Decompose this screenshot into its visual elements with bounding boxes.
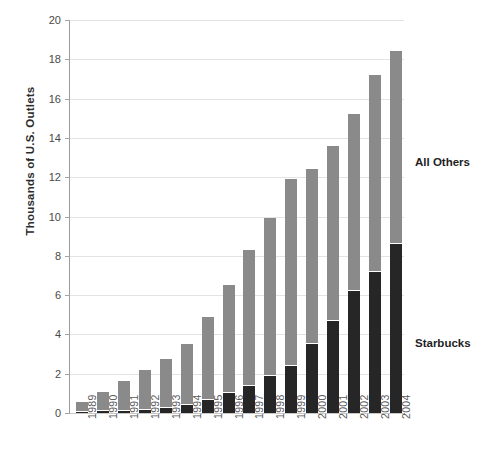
y-tick-label: 0 — [55, 407, 61, 419]
series-annotation-starbucks: Starbucks — [415, 337, 471, 349]
x-tick-label: 1994 — [191, 394, 203, 419]
x-tick-label: 1992 — [149, 394, 161, 419]
x-tick-label: 2000 — [316, 394, 328, 419]
x-tick-label: 1991 — [128, 394, 140, 419]
bar-group — [348, 114, 360, 413]
x-tick-label: 2004 — [400, 394, 412, 419]
y-tick-mark-6 — [65, 295, 70, 296]
x-tick-label: 1993 — [170, 394, 182, 419]
y-tick-label: 12 — [49, 171, 61, 183]
y-tick-label: 14 — [49, 132, 61, 144]
x-tick-label: 1996 — [233, 394, 245, 419]
x-tick-label: 2001 — [337, 394, 349, 419]
y-tick-mark-12 — [65, 177, 70, 178]
x-tick-label: 1989 — [86, 394, 98, 419]
y-tick-mark-16 — [65, 99, 70, 100]
y-tick-mark-14 — [65, 138, 70, 139]
x-tick-label: 1995 — [212, 394, 224, 419]
series-annotation-all-others: All Others — [415, 156, 470, 168]
y-tick-mark-4 — [65, 334, 70, 335]
gridline-18 — [70, 59, 404, 60]
bar-group — [306, 169, 318, 413]
x-tick-label: 1999 — [295, 394, 307, 419]
y-tick-mark-10 — [65, 217, 70, 218]
y-tick-mark-0 — [65, 413, 70, 414]
y-tick-label: 6 — [55, 289, 61, 301]
bar-group — [390, 51, 402, 413]
x-tick-label: 2003 — [379, 394, 391, 419]
y-axis-title: Thousands of U.S. Outlets — [24, 61, 36, 261]
y-tick-label: 8 — [55, 250, 61, 262]
plot-area: 02468101214161820 1989199019911992199319… — [70, 20, 404, 413]
y-tick-mark-20 — [65, 20, 70, 21]
gridline-20 — [70, 20, 404, 21]
y-tick-label: 4 — [55, 328, 61, 340]
stacked-bar-chart: Thousands of U.S. Outlets 02468101214161… — [0, 0, 494, 465]
y-tick-label: 10 — [49, 211, 61, 223]
gridline-16 — [70, 99, 404, 100]
y-tick-label: 2 — [55, 368, 61, 380]
y-tick-mark-18 — [65, 59, 70, 60]
x-tick-label: 2002 — [358, 394, 370, 419]
bar-group — [285, 179, 297, 413]
x-tick-label: 1997 — [253, 394, 265, 419]
x-tick-label: 1990 — [107, 394, 119, 419]
bar-segment-starbucks — [369, 271, 381, 413]
y-tick-label: 18 — [49, 53, 61, 65]
bar-group — [264, 218, 276, 413]
bar-segment-starbucks — [390, 243, 402, 413]
y-tick-label: 20 — [49, 14, 61, 26]
bar-group — [327, 146, 339, 413]
y-tick-mark-2 — [65, 374, 70, 375]
y-tick-mark-8 — [65, 256, 70, 257]
bar-group — [369, 75, 381, 413]
bar-group — [243, 250, 255, 413]
y-tick-label: 16 — [49, 93, 61, 105]
x-tick-label: 1998 — [274, 394, 286, 419]
